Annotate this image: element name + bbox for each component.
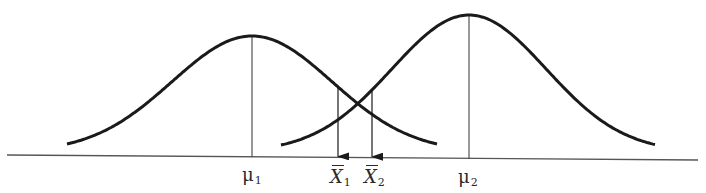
label-mu-1: μ1 (242, 166, 262, 186)
x-axis (7, 155, 698, 160)
label-x-bar-2: X2 (364, 168, 385, 188)
mu-symbol: μ (242, 164, 254, 185)
mu-symbol: μ (458, 166, 470, 187)
x-subscript: 2 (378, 176, 385, 189)
overline (332, 165, 344, 166)
mu-subscript: 2 (471, 176, 478, 189)
normal-curve-2 (281, 15, 655, 145)
x-subscript: 1 (344, 176, 351, 189)
x-symbol: X (330, 166, 343, 187)
distribution-diagram: μ1 μ2 X1 X2 (0, 0, 706, 193)
label-x-bar-1: X1 (330, 168, 351, 188)
label-mu-2: μ2 (458, 168, 478, 188)
overline (366, 165, 378, 166)
mu-subscript: 1 (255, 174, 262, 187)
x-symbol: X (364, 166, 377, 187)
diagram-canvas (0, 0, 706, 193)
